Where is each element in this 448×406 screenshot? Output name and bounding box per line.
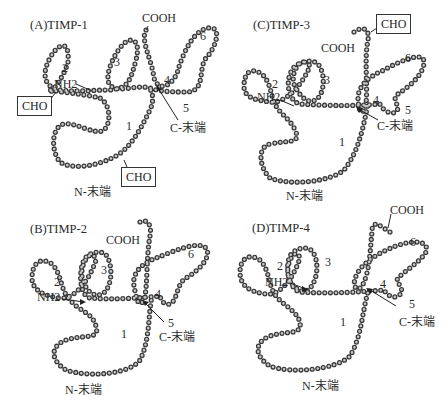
panel-c-c-terminal-label: C-末端	[377, 120, 413, 132]
panel-a-title: (A)TIMP-1	[30, 19, 88, 31]
panel-c-loop-3: 3	[324, 74, 330, 86]
panel-a-cooh-label: COOH	[142, 12, 176, 24]
panel-d-nh2-label: NH2	[265, 276, 288, 288]
panel-c-loop-6: 6	[405, 52, 411, 64]
panel-c-title: (C)TIMP-3	[253, 19, 310, 31]
panel-b-n-terminal-label: N-末端	[65, 384, 102, 396]
panel-b-loop-6: 6	[188, 248, 194, 260]
panel-d-loop-3: 3	[325, 256, 331, 268]
panel-b-title: (B)TIMP-2	[30, 223, 87, 235]
panel-b-c-terminal-label: C-末端	[159, 331, 195, 343]
panel-b-loop-5: 5	[168, 317, 174, 329]
panel-b-loop-3: 3	[101, 264, 107, 276]
panel-a-nh2-label: NH2	[54, 78, 77, 90]
panel-d-title: (D)TIMP-4	[252, 222, 310, 234]
panel-a-c-terminal-label: C-末端	[170, 122, 206, 134]
panel-d-loop-2: 2	[277, 260, 283, 272]
panel-c-loop-4: 4	[373, 94, 379, 106]
panel-b-nh2-label: NH2	[37, 291, 60, 303]
panel-a-loop-4: 4	[164, 74, 170, 86]
panel-a-cho-box-1: CHO	[17, 96, 52, 116]
panel-d-c-terminal-label: C-末端	[399, 316, 435, 328]
panel-c-loop-2: 2	[272, 78, 278, 90]
panel-a-n-terminal-label: N-末端	[74, 186, 111, 198]
panel-c-nh2-label: NH2	[257, 91, 280, 103]
panel-c-loop-1: 1	[339, 136, 345, 148]
panel-a-loop-6: 6	[200, 30, 206, 42]
panel-a-chain	[45, 28, 217, 166]
panel-d-cooh-label: COOH	[390, 204, 424, 216]
panel-c-loop-5: 5	[405, 104, 411, 116]
pointer-lines	[50, 26, 396, 322]
panel-d-n-terminal-label: N-末端	[302, 380, 339, 392]
panel-a-loop-3: 3	[114, 56, 120, 68]
panel-a-loop-5: 5	[183, 102, 189, 114]
panel-a-cho-box-2: CHO	[121, 167, 156, 187]
panel-b-cooh-label: COOH	[106, 234, 140, 246]
panel-c-cho-box: CHO	[376, 14, 411, 34]
panel-d-loop-1: 1	[340, 316, 346, 328]
panel-a-loop-1: 1	[126, 120, 132, 132]
panel-c-n-terminal-label: N-末端	[286, 190, 323, 202]
panel-d-loop-4: 4	[380, 278, 386, 290]
panel-d-loop-6: 6	[410, 236, 416, 248]
panel-a-loop-2: 2	[62, 62, 68, 74]
panel-c-cooh-label: COOH	[321, 42, 355, 54]
panel-b-loop-2: 2	[54, 276, 60, 288]
panel-b-loop-4: 4	[155, 288, 161, 300]
panel-b-loop-1: 1	[121, 328, 127, 340]
panel-d-loop-5: 5	[409, 298, 415, 310]
panel-d-chain	[240, 224, 427, 370]
